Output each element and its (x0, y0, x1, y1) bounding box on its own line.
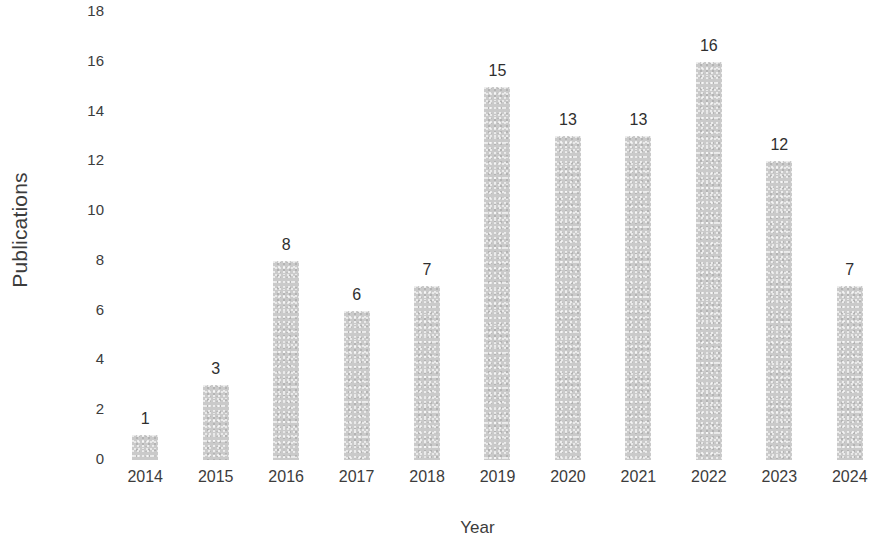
bar[interactable] (203, 385, 229, 460)
x-axis-tick: 2015 (198, 468, 234, 486)
y-axis-tick: 14 (60, 102, 104, 117)
plot-area: 1386715131316127 (110, 10, 885, 460)
bar-slot: 1 (110, 12, 180, 460)
y-axis-tick: 6 (60, 301, 104, 316)
y-axis-tick: 10 (60, 202, 104, 217)
bar-value-label: 1 (141, 411, 150, 427)
bar[interactable] (344, 311, 370, 460)
x-axis-tick: 2019 (480, 468, 516, 486)
bar-slot: 13 (533, 12, 603, 460)
y-axis-tick: 18 (60, 3, 104, 18)
y-axis-title: Publications (0, 0, 40, 460)
y-axis-title-label: Publications (8, 172, 32, 288)
bar[interactable] (625, 136, 651, 460)
x-axis-tick: 2024 (832, 468, 868, 486)
bar-slot: 13 (603, 12, 673, 460)
bar-slot: 7 (392, 12, 462, 460)
bar-value-label: 12 (770, 137, 788, 153)
y-axis-tick: 8 (60, 251, 104, 266)
bar[interactable] (484, 87, 510, 460)
bar-value-label: 15 (489, 63, 507, 79)
bar[interactable] (273, 261, 299, 460)
x-axis-tick: 2021 (621, 468, 657, 486)
bar[interactable] (555, 136, 581, 460)
bar-value-label: 6 (352, 287, 361, 303)
bar-value-label: 8 (282, 237, 291, 253)
bar-value-label: 7 (845, 262, 854, 278)
x-axis-title-label: Year (390, 518, 494, 538)
bar-slot: 16 (674, 12, 744, 460)
bar-slot: 3 (180, 12, 250, 460)
x-axis-tick: 2023 (762, 468, 798, 486)
bar[interactable] (414, 286, 440, 460)
y-axis-tick: 16 (60, 52, 104, 67)
y-axis-tick: 12 (60, 152, 104, 167)
bar-chart: Publications 024681012141618 13867151313… (0, 0, 885, 554)
x-axis-tick: 2022 (691, 468, 727, 486)
bar-value-label: 13 (559, 112, 577, 128)
x-axis-tick: 2017 (339, 468, 375, 486)
y-axis-tick: 4 (60, 351, 104, 366)
bar-value-label: 16 (700, 38, 718, 54)
x-axis-tick: 2018 (409, 468, 445, 486)
bar-value-label: 3 (211, 361, 220, 377)
x-axis-tick: 2016 (268, 468, 304, 486)
bar[interactable] (132, 435, 158, 460)
bar-slot: 8 (251, 12, 321, 460)
bar-slot: 15 (462, 12, 532, 460)
y-axis-tick-labels: 024681012141618 (60, 0, 104, 470)
bar[interactable] (696, 62, 722, 460)
x-axis-title: Year (0, 518, 885, 538)
bar-value-label: 13 (629, 112, 647, 128)
x-axis-tick: 2020 (550, 468, 586, 486)
bar-slot: 12 (744, 12, 814, 460)
y-axis-tick: 2 (60, 401, 104, 416)
bar[interactable] (766, 161, 792, 460)
x-axis-tick-labels: 2014201520162017201820192020202120222023… (110, 468, 885, 494)
bar-slot: 6 (321, 12, 391, 460)
x-axis-tick: 2014 (127, 468, 163, 486)
bar[interactable] (837, 286, 863, 460)
bar-slot: 7 (815, 12, 885, 460)
y-axis-tick: 0 (60, 451, 104, 466)
bar-value-label: 7 (423, 262, 432, 278)
